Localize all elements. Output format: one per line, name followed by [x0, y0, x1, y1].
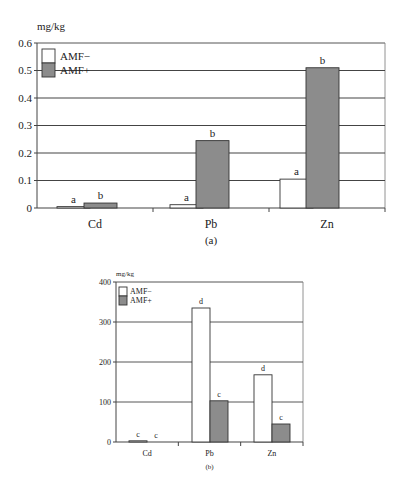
legend-swatch: [119, 296, 127, 305]
significance-label: d: [199, 297, 203, 306]
legend-label: AMF−: [130, 287, 152, 296]
y-tick-label: 300: [99, 318, 111, 327]
bar-zn-amf-plus: [306, 68, 339, 208]
y-axis-unit: mg/kg: [37, 20, 66, 32]
x-category-label: Cd: [88, 217, 102, 231]
chart-b: 0100200300400ccCddcPbdcZnAMF−AMF+mg/kg(b…: [99, 270, 303, 471]
significance-label: a: [71, 193, 76, 205]
significance-label: c: [217, 390, 221, 399]
x-category-label: Pb: [205, 217, 218, 231]
x-category-label: Zn: [267, 449, 276, 458]
bar-pb-amf-plus: [210, 401, 228, 442]
x-category-label: Pb: [205, 449, 213, 458]
legend: AMF−AMF+: [42, 49, 90, 77]
significance-label: c: [154, 431, 158, 440]
legend-swatch: [42, 49, 55, 63]
chart-a: 00.10.20.30.40.50.6abCdabPbabZnAMF−AMF+m…: [18, 20, 385, 247]
legend: AMF−AMF+: [119, 287, 152, 305]
significance-label: a: [294, 165, 299, 177]
significance-label: b: [210, 127, 216, 139]
legend-label: AMF+: [130, 296, 152, 305]
y-tick-label: 400: [99, 278, 111, 287]
bar-pb-amf-plus: [196, 141, 229, 208]
y-tick-label: 0.4: [18, 92, 32, 104]
y-tick-label: 0.3: [18, 119, 32, 131]
legend-label: AMF−: [60, 50, 90, 62]
x-category-label: Zn: [320, 217, 333, 231]
bar-zn-amf-minus: [254, 375, 272, 442]
x-category-label: Cd: [142, 449, 151, 458]
y-tick-label: 0.2: [18, 147, 32, 159]
y-tick-label: 200: [99, 358, 111, 367]
y-tick-label: 0: [107, 438, 111, 447]
panel-label: (b): [205, 463, 214, 471]
legend-label: AMF+: [60, 64, 90, 76]
legend-swatch: [119, 287, 127, 296]
y-axis-unit: mg/kg: [116, 270, 134, 278]
significance-label: b: [320, 54, 326, 66]
y-tick-label: 0.5: [18, 64, 32, 76]
y-tick-label: 100: [99, 398, 111, 407]
y-tick-label: 0.1: [18, 174, 32, 186]
significance-label: c: [279, 413, 283, 422]
panel-label: (a): [205, 234, 218, 247]
y-tick-label: 0.6: [18, 37, 32, 49]
bar-cd-amf-plus: [84, 203, 117, 208]
significance-label: b: [98, 189, 104, 201]
figure: 00.10.20.30.40.50.6abCdabPbabZnAMF−AMF+m…: [0, 0, 399, 496]
y-tick-label: 0: [27, 202, 33, 214]
legend-swatch: [42, 63, 55, 77]
bar-pb-amf-minus: [192, 308, 210, 442]
bar-zn-amf-plus: [272, 424, 290, 442]
significance-label: a: [184, 191, 189, 203]
significance-label: c: [136, 430, 140, 439]
bar-cd-amf-minus: [129, 441, 147, 442]
significance-label: d: [261, 364, 265, 373]
